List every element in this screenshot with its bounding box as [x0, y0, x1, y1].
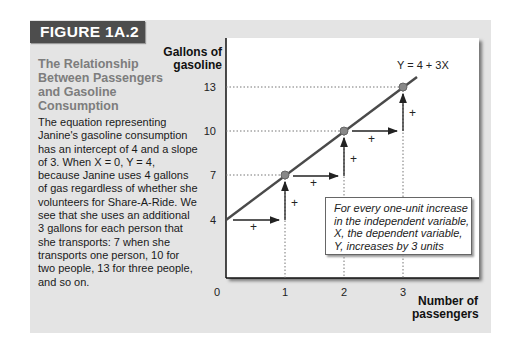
svg-text:+: + [350, 152, 357, 166]
svg-text:+: + [291, 196, 298, 210]
svg-text:+: + [368, 132, 375, 146]
equation-label: Y = 4 + 3X [397, 59, 449, 71]
y-tick-7: 7 [196, 169, 216, 181]
y-tick-10: 10 [196, 125, 216, 137]
y-tick-4: 4 [196, 214, 216, 226]
svg-text:+: + [250, 220, 257, 234]
x-tick-2: 2 [341, 286, 347, 298]
x-axis-label: Number of passengers [412, 295, 478, 321]
x-tick-1: 1 [282, 286, 288, 298]
svg-text:+: + [409, 106, 416, 120]
annotation-box: For every one-unit increase in the indep… [325, 197, 472, 255]
svg-text:+: + [310, 176, 317, 190]
origin-label: 0 [214, 286, 220, 298]
x-tick-3: 3 [400, 286, 406, 298]
y-tick-13: 13 [196, 81, 216, 93]
